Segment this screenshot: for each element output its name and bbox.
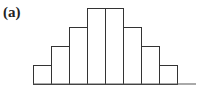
histogram-bar	[34, 66, 52, 85]
histogram-bar	[88, 9, 106, 85]
histogram	[0, 0, 199, 89]
histogram-bar	[70, 28, 88, 85]
histogram-bar	[106, 9, 124, 85]
histogram-bar	[52, 47, 70, 85]
histogram-bar	[124, 28, 142, 85]
histogram-bar	[142, 47, 160, 85]
histogram-bar	[160, 66, 178, 85]
histogram-bars	[34, 9, 178, 85]
